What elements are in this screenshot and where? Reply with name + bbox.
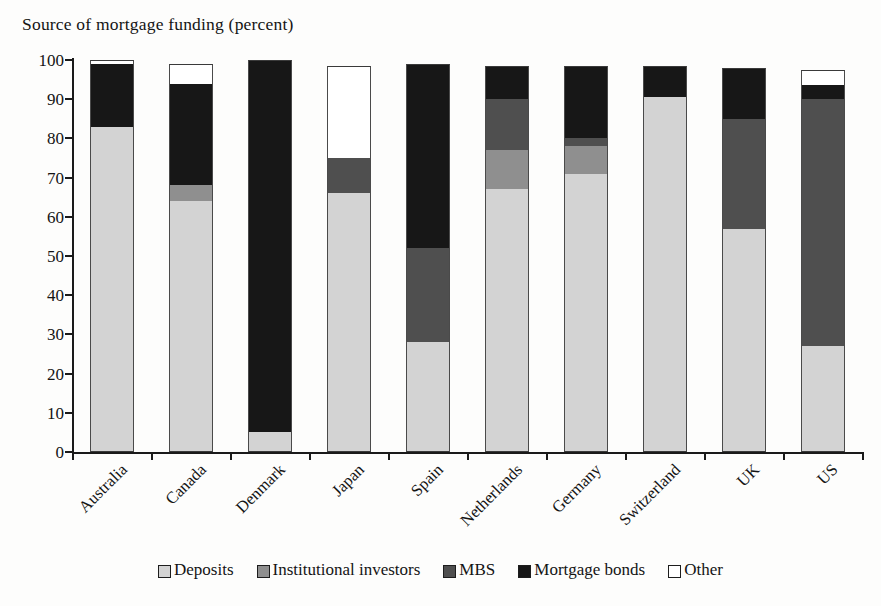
segment-bonds [485, 66, 529, 99]
bar-us[interactable] [801, 60, 845, 452]
x-label-uk: UK [733, 460, 764, 491]
legend-item-mbs[interactable]: MBS [443, 560, 495, 580]
x-label-text: Netherlands [456, 460, 527, 531]
legend-item-deposits[interactable]: Deposits [158, 560, 234, 580]
segment-bonds [564, 66, 608, 139]
x-label-text: UK [733, 460, 764, 491]
x-tick-mark [72, 452, 74, 460]
bar-japan[interactable] [327, 60, 371, 452]
segment-bonds [169, 84, 213, 186]
x-tick-mark [467, 452, 469, 460]
bar-uk[interactable] [722, 60, 766, 452]
legend-label: Mortgage bonds [534, 560, 645, 580]
legend-swatch-icon [668, 565, 681, 578]
y-tick-label: 0 [12, 444, 64, 461]
segment-deposits [169, 201, 213, 452]
y-tick-label: 100 [12, 52, 64, 69]
bar-germany[interactable] [564, 60, 608, 452]
legend-swatch-icon [443, 565, 456, 578]
legend-label: Deposits [174, 560, 234, 580]
legend-item-other[interactable]: Other [668, 560, 723, 580]
x-tick-mark [151, 452, 153, 460]
bar-netherlands[interactable] [485, 60, 529, 452]
chart-page: Source of mortgage funding (percent) 010… [0, 0, 881, 606]
segment-bonds [722, 68, 766, 119]
x-label-netherlands: Netherlands [456, 460, 527, 531]
y-tick-label: 80 [12, 130, 64, 147]
y-tick-mark [65, 137, 72, 139]
y-tick-label: 70 [12, 169, 64, 186]
legend-label: MBS [459, 560, 495, 580]
y-tick-mark [65, 373, 72, 375]
chart-legend: DepositsInstitutional investorsMBSMortga… [0, 560, 881, 580]
y-tick-mark [65, 412, 72, 414]
segment-mbs [406, 248, 450, 342]
y-tick-label: 50 [12, 248, 64, 265]
y-tick-mark [65, 294, 72, 296]
segment-other [169, 64, 213, 84]
x-label-spain: Spain [407, 460, 448, 501]
x-label-text: Switzerland [615, 460, 685, 530]
y-tick-mark [65, 333, 72, 335]
bar-canada[interactable] [169, 60, 213, 452]
y-tick-mark [65, 451, 72, 453]
segment-institutional [485, 150, 529, 189]
bar-australia[interactable] [90, 60, 134, 452]
y-tick-mark [65, 59, 72, 61]
x-label-text: Australia [75, 460, 132, 517]
segment-institutional [564, 146, 608, 173]
x-label-japan: Japan [328, 460, 369, 501]
legend-label: Other [684, 560, 723, 580]
segment-bonds [643, 66, 687, 97]
segment-other [801, 70, 845, 86]
y-tick-label: 90 [12, 91, 64, 108]
segment-bonds [801, 85, 845, 99]
x-label-text: Spain [407, 460, 448, 501]
segment-bonds [90, 64, 134, 127]
segment-institutional [169, 185, 213, 201]
segment-deposits [564, 174, 608, 452]
x-label-denmark: Denmark [232, 460, 290, 518]
y-tick-label: 60 [12, 208, 64, 225]
segment-deposits [801, 346, 845, 452]
y-tick-mark [65, 177, 72, 179]
x-label-australia: Australia [75, 460, 132, 517]
segment-other [90, 60, 134, 64]
segment-mbs [485, 99, 529, 150]
x-label-us: US [814, 460, 843, 489]
segment-deposits [643, 97, 687, 452]
segment-other [327, 66, 371, 158]
x-label-text: Germany [548, 460, 606, 518]
x-label-switzerland: Switzerland [615, 460, 685, 530]
segment-deposits [327, 193, 371, 452]
y-tick-label: 40 [12, 287, 64, 304]
x-tick-mark [546, 452, 548, 460]
legend-item-mortgage-bonds[interactable]: Mortgage bonds [518, 560, 645, 580]
x-label-text: Japan [328, 460, 369, 501]
legend-item-institutional-investors[interactable]: Institutional investors [257, 560, 421, 580]
x-label-text: Denmark [232, 460, 290, 518]
x-tick-mark [625, 452, 627, 460]
legend-swatch-icon [257, 565, 270, 578]
y-tick-mark [65, 98, 72, 100]
x-label-canada: Canada [162, 460, 211, 509]
bar-denmark[interactable] [248, 60, 292, 452]
segment-mbs [564, 138, 608, 146]
y-tick-mark [65, 255, 72, 257]
segment-bonds [406, 64, 450, 248]
plot-area [72, 60, 862, 452]
bar-switzerland[interactable] [643, 60, 687, 452]
bar-spain[interactable] [406, 60, 450, 452]
segment-mbs [327, 158, 371, 193]
x-tick-mark [388, 452, 390, 460]
x-label-text: Canada [162, 460, 211, 509]
y-tick-label: 30 [12, 326, 64, 343]
segment-bonds [248, 60, 292, 432]
segment-deposits [90, 127, 134, 452]
chart-title: Source of mortgage funding (percent) [22, 14, 294, 35]
x-tick-mark [309, 452, 311, 460]
y-tick-label: 20 [12, 365, 64, 382]
segment-deposits [406, 342, 450, 452]
x-tick-mark [862, 452, 864, 460]
y-tick-label: 10 [12, 404, 64, 421]
